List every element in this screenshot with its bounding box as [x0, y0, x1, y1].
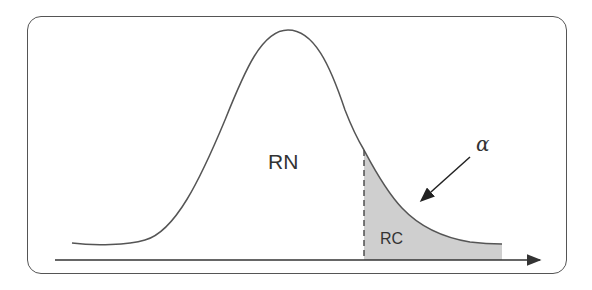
- rejection-region-label: RC: [380, 230, 403, 248]
- alpha-label: α: [476, 132, 490, 156]
- alpha-arrow: [422, 157, 470, 200]
- acceptance-region-label: RN: [268, 150, 298, 174]
- bell-curve: [72, 30, 502, 245]
- distribution-diagram: [0, 0, 592, 290]
